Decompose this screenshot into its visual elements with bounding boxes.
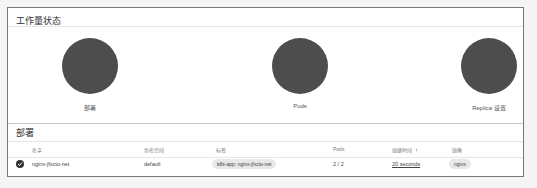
divider [8,26,523,27]
deployments-chart-label: 部署 [50,103,130,112]
check-circle-icon [16,160,24,168]
deployment-name-link[interactable]: nginx-jfxcto-net [32,161,69,167]
pods-chart-label: Pods [260,103,340,109]
deployments-title: 部署 [16,126,34,139]
deployment-pods: 2 / 2 [333,161,344,167]
replicasets-chart-label: Replica 设置 [449,103,529,112]
deployments-status-chart[interactable] [62,38,118,94]
section-divider [8,123,523,124]
divider [8,141,523,142]
sort-arrow-up-icon[interactable]: ↑ [415,147,418,153]
column-header-name[interactable]: 名字 [32,146,42,153]
label-chip: k8s-app: nginx-jfxcto-net [212,159,276,169]
divider [8,157,523,158]
column-header-created-label: 创建时间 [392,147,412,153]
column-header-created[interactable]: 创建时间↑ [392,146,418,153]
pods-status-chart[interactable] [272,38,328,94]
deployment-namespace: default [144,161,161,167]
image-chip: nginx [449,159,471,169]
column-header-labels: 标签 [216,146,226,153]
column-header-images: 镜像 [452,146,462,153]
column-header-pods: Pods [333,146,344,152]
workload-card: 工作量状态 部署 Pods Replica 设置 部署 名字 命名空间 标签 P… [7,7,524,177]
column-header-namespace: 命名空间 [144,146,164,153]
deployment-created[interactable]: 20 seconds [392,161,420,167]
replicasets-status-chart[interactable] [461,38,517,94]
